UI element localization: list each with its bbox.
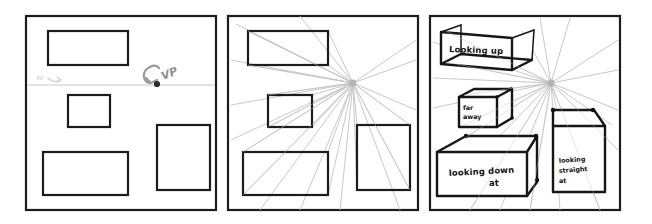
panel-3: Looking up far away <box>430 16 620 210</box>
panel-3-vanishing-point-dot <box>548 80 555 87</box>
horizon-line-note: hl <box>37 74 44 81</box>
box-looking-straight-at-label-line3: at <box>559 177 566 185</box>
panel-1-frame <box>26 16 216 210</box>
box-looking-down-at-label-line2: at <box>489 178 499 188</box>
box-far-away-label-line1: far <box>463 104 474 112</box>
box-far-away-label-line2: away <box>463 113 482 121</box>
perspective-diagram-canvas: hl VP <box>0 0 652 224</box>
box-far-away: far away <box>459 87 514 127</box>
panel-2 <box>228 16 418 210</box>
panel-1: hl VP <box>26 16 216 210</box>
panel-2-vanishing-point-dot <box>350 80 357 87</box>
box-looking-down-at: looking down at <box>437 134 539 196</box>
box-looking-straight-at: looking straight at <box>551 108 605 192</box>
vanishing-point-dot <box>154 81 160 87</box>
